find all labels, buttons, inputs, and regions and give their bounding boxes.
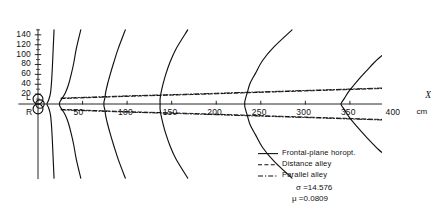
legend-sample-lines — [258, 154, 278, 176]
x-tick-label-50: 50 — [74, 107, 84, 117]
y-tick-label-40: 40 — [5, 78, 31, 88]
x-tick-label-200: 200 — [207, 107, 222, 117]
x-tick-label-100: 100 — [118, 107, 133, 117]
x-tick-label-350: 350 — [341, 107, 356, 117]
x-axis-unit: cm — [416, 107, 427, 116]
x-tick-label-300: 300 — [296, 107, 311, 117]
x-tick-label-250: 250 — [252, 107, 267, 117]
curve-8 — [61, 87, 382, 98]
legend-label-frontal-plane-horopter: Frontal-plane horopt. — [282, 148, 356, 157]
y-tick-label-60: 60 — [5, 68, 31, 78]
x-axis-name: X — [425, 90, 431, 100]
y-tick-label-140: 140 — [5, 29, 31, 39]
y-tick-label-100: 100 — [5, 49, 31, 59]
legend-label-distance-alley: Distance alley — [282, 159, 331, 168]
eye-label-left: L — [26, 92, 31, 102]
x-tick-label-150: 150 — [163, 107, 178, 117]
x-tick-label-400: 400 — [385, 107, 400, 117]
eye-label-right: R — [26, 107, 32, 117]
legend-label-parallel-alley: Parallel alley — [282, 170, 327, 179]
y-tick-label-120: 120 — [5, 39, 31, 49]
y-tick-label-80: 80 — [5, 58, 31, 68]
legend-param-mu: μ =0.0809 — [292, 194, 328, 203]
legend-param-sigma: σ =14.576 — [296, 183, 332, 192]
